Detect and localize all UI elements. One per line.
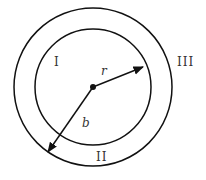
concentric-circles-diagram: I II III r b bbox=[0, 0, 206, 180]
center-point bbox=[90, 84, 96, 90]
region-label-i: I bbox=[54, 55, 60, 69]
region-label-ii: II bbox=[96, 150, 107, 164]
b-label: b bbox=[82, 116, 90, 130]
region-label-iii: III bbox=[177, 55, 194, 69]
r-label: r bbox=[101, 64, 108, 78]
